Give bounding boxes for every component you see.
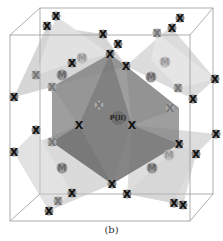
x-atom: X: [68, 59, 77, 68]
x-atom: X: [170, 199, 179, 208]
m-atom: M: [146, 72, 157, 83]
x-atom: X: [75, 121, 84, 130]
x-atom: X: [108, 180, 117, 189]
x-atom: X: [10, 93, 19, 102]
x-atom: X: [114, 40, 123, 49]
x-atom: X: [123, 190, 132, 199]
x-atom: X: [32, 71, 41, 80]
m-atom: M: [147, 163, 158, 174]
figure-caption: (b): [0, 224, 223, 235]
x-atom: X: [175, 140, 184, 149]
crystal-structure-figure: XXXXXXXX MMM MMMM XXXXXXXXXXXXXXXXXXXXXX…: [0, 0, 223, 223]
x-atom: X: [45, 207, 54, 216]
x-atom: X: [54, 197, 63, 206]
x-atom: X: [189, 95, 198, 104]
m-atom: M: [160, 57, 171, 68]
x-atom: X: [212, 130, 221, 139]
x-atom: X: [176, 14, 185, 23]
x-atom: X: [166, 104, 175, 113]
x-atom: X: [122, 62, 131, 71]
x-atom: X: [48, 83, 57, 92]
x-atom: X: [174, 84, 183, 93]
x-atom: X: [128, 121, 137, 130]
x-atom: X: [48, 138, 57, 147]
x-atom: X: [192, 150, 201, 159]
x-atom: X: [68, 189, 77, 198]
m-atom: M: [164, 150, 175, 161]
m-atom: M: [57, 163, 68, 174]
x-atom: X: [52, 12, 61, 21]
x-atom: X: [153, 29, 162, 38]
m-atom: M: [77, 53, 88, 64]
center-atom-p-ii: P(II): [111, 111, 125, 125]
x-atom: X: [43, 22, 52, 31]
x-atom: X: [211, 75, 220, 84]
x-atom: X: [95, 101, 104, 110]
x-atom: X: [106, 50, 115, 59]
x-atom: X: [32, 126, 41, 135]
m-atom: M: [57, 70, 68, 81]
x-atom: X: [168, 24, 177, 33]
x-atom: X: [10, 148, 19, 157]
x-atom: X: [179, 201, 188, 210]
x-atom: X: [99, 30, 108, 39]
